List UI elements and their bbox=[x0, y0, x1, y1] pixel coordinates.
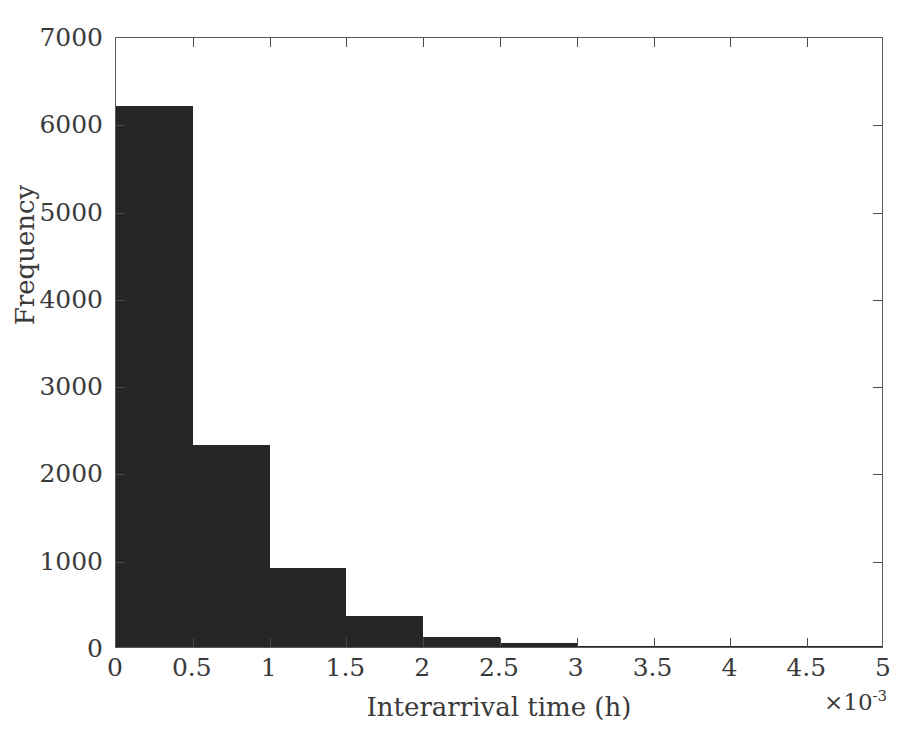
y-tick-label: 7000 bbox=[0, 25, 103, 50]
x-axis-exponent-base: ×10 bbox=[824, 689, 873, 715]
y-tick-label: 1000 bbox=[0, 548, 103, 573]
y-tick-label: 2000 bbox=[0, 461, 103, 486]
x-axis-exponent-power: -3 bbox=[873, 687, 888, 705]
x-axis-exponent: ×10-3 bbox=[824, 687, 887, 715]
y-tick-label: 0 bbox=[0, 636, 103, 661]
y-tick-label: 6000 bbox=[0, 112, 103, 137]
y-tick-labels: 01000200030004000500060007000 bbox=[0, 0, 918, 739]
histogram-figure: 00.511.522.533.544.55 010002000300040005… bbox=[0, 0, 918, 739]
y-axis-label: Frequency bbox=[10, 175, 40, 335]
y-tick-label: 3000 bbox=[0, 374, 103, 399]
x-axis-label: Interarrival time (h) bbox=[115, 692, 883, 722]
